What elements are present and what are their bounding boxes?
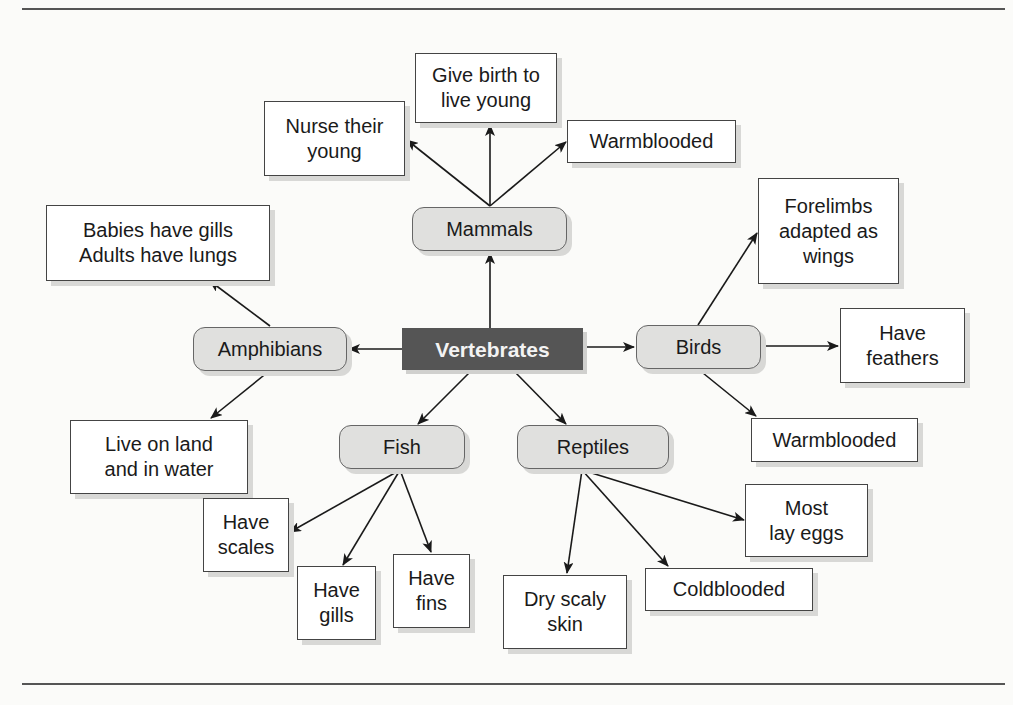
reptiles-label: Reptiles: [557, 435, 629, 460]
trait-land-water: Live on land and in water: [70, 420, 248, 494]
vertebrates-label: Vertebrates: [435, 337, 549, 362]
mammals-label: Mammals: [446, 217, 533, 242]
trait-coldblooded: Coldblooded: [645, 568, 813, 611]
trait-dry-scaly-skin: Dry scaly skin: [503, 575, 627, 649]
trait-give-birth: Give birth to live young: [415, 53, 557, 123]
amphibians-label: Amphibians: [218, 337, 323, 362]
birds-label: Birds: [676, 335, 722, 360]
trait-gills-lungs: Babies have gills Adults have lungs: [46, 205, 270, 281]
fish-label: Fish: [383, 435, 421, 460]
trait-birds-warmblooded: Warmblooded: [751, 418, 918, 462]
trait-nurse-young: Nurse their young: [264, 101, 405, 176]
fish-node: Fish: [339, 425, 465, 469]
vertebrates-root-node: Vertebrates: [402, 328, 583, 370]
trait-have-fins: Have fins: [393, 554, 470, 628]
mammals-node: Mammals: [412, 207, 567, 251]
trait-have-feathers: Have feathers: [840, 308, 965, 383]
birds-node: Birds: [636, 325, 761, 369]
trait-forelimbs-wings: Forelimbs adapted as wings: [758, 178, 899, 284]
trait-mammals-warmblooded: Warmblooded: [567, 120, 736, 163]
trait-most-lay-eggs: Most lay eggs: [745, 484, 868, 557]
reptiles-node: Reptiles: [517, 425, 669, 469]
trait-have-gills: Have gills: [297, 566, 376, 640]
trait-have-scales: Have scales: [203, 498, 289, 572]
amphibians-node: Amphibians: [193, 327, 347, 371]
